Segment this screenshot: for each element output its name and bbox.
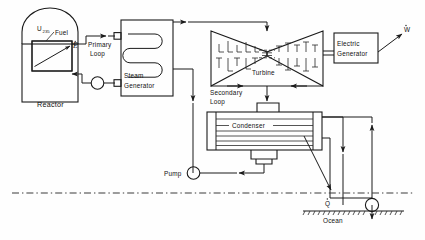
- electric-generator-label-line2: Generator: [337, 50, 368, 57]
- heat-rejected-dot: [327, 198, 328, 199]
- work-output-dot: [405, 25, 406, 26]
- condenser-label-text: Condenser: [232, 122, 266, 129]
- diagram-background: [0, 0, 425, 240]
- secondary-loop-label-line2: Loop: [210, 98, 225, 106]
- reactor-label: Reactor: [37, 100, 64, 109]
- fuel-subscript-label: 235: [43, 29, 51, 34]
- steam-generator-label-line2: Generator: [124, 82, 155, 89]
- pump-label: Pump: [164, 170, 182, 178]
- primary-loop-label-line2: Loop: [90, 50, 105, 58]
- secondary-loop-label-line1: Secondary: [210, 89, 243, 97]
- work-output-label: W: [404, 26, 411, 33]
- primary-loop-label-line1: Primary: [88, 41, 112, 49]
- steam-generator-label-line1: Steam: [124, 72, 143, 79]
- fuel-symbol-label: U: [37, 25, 42, 32]
- ocean-label: Ocean: [323, 217, 343, 224]
- schematic-canvas: U 235 Fuel E Reactor Primary Loop Steam …: [0, 0, 425, 240]
- electric-generator-label-line1: Electric: [337, 40, 360, 47]
- turbine-label: Turbine: [252, 69, 275, 76]
- fuel-word-label: Fuel: [55, 29, 68, 36]
- heat-rejected-label: Q: [325, 200, 330, 208]
- nuclear-plant-diagram: U 235 Fuel E Reactor Primary Loop Steam …: [0, 0, 425, 240]
- core-energy-label: E: [72, 41, 78, 50]
- core-energy-dot: [75, 41, 76, 42]
